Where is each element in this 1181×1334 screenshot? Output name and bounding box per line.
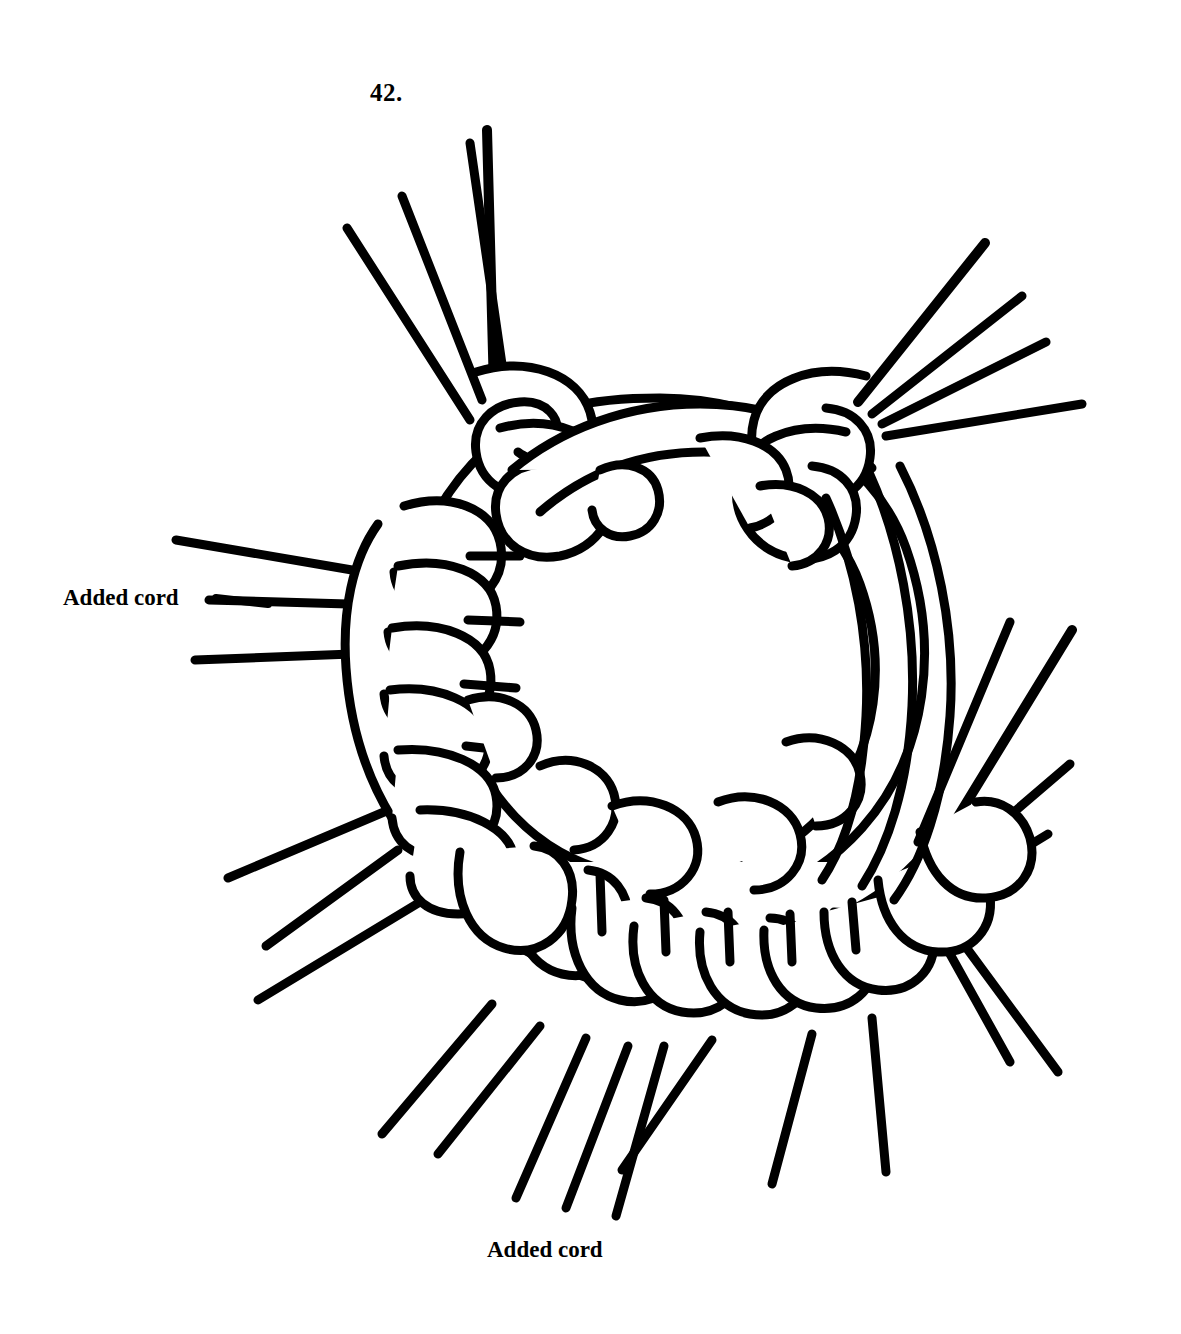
hitch-link-2 — [468, 620, 520, 622]
hitch-bottom-link-5 — [852, 902, 856, 950]
hitch-link-3 — [464, 684, 516, 688]
added-cord-label-bottom: Added cord — [487, 1238, 603, 1261]
figure-number-label: 42. — [370, 80, 403, 105]
hitch-bottom-link-4 — [790, 914, 792, 962]
figure-page: 42. Added cord Added cord — [0, 0, 1181, 1334]
hitch-bottom-link-3 — [728, 912, 730, 962]
added-cord-label-left: Added cord — [63, 586, 179, 609]
hitch-bottom-link-2 — [664, 900, 666, 952]
hitch-bottom-link-1 — [600, 874, 602, 932]
hitch-bottom-8 — [458, 846, 572, 950]
inner-loop-top-1 — [592, 465, 660, 537]
macrame-ring-illustration — [0, 0, 1181, 1334]
